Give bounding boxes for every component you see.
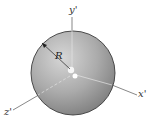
sphere-diagram: R y' x' z' [0, 0, 150, 134]
x-axis-label: x' [138, 89, 146, 99]
radius-label: R [55, 51, 63, 61]
y-axis-label: y' [69, 5, 77, 15]
center-point [73, 74, 78, 79]
z-axis-label: z' [4, 107, 12, 117]
sphere-drawing [0, 0, 150, 134]
z-axis-line [13, 96, 37, 110]
x-axis-line [112, 85, 137, 95]
sphere [31, 31, 115, 115]
